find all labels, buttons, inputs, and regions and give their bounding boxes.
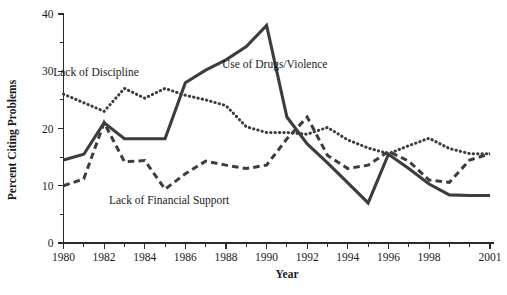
y-tick-label: 20: [42, 123, 54, 135]
x-tick-label: 1980: [52, 251, 75, 263]
y-tick-label: 0: [48, 237, 54, 249]
line-chart: 010203040 198019821984198619881990199219…: [0, 0, 507, 295]
series-line-0: [64, 25, 491, 202]
x-tick-label: 1986: [174, 251, 197, 263]
x-tick-label: 1998: [418, 251, 441, 263]
x-axis-title: Year: [276, 268, 299, 280]
axis-ticks: [58, 14, 490, 249]
y-axis-title: Percent Citing Problems: [6, 79, 19, 200]
y-axis-tick-labels: 010203040: [42, 8, 54, 249]
y-tick-label: 40: [42, 8, 54, 20]
axes: [64, 14, 495, 243]
series-label-0: Use of Drugs/Violence: [222, 58, 327, 71]
y-tick-label: 30: [42, 65, 54, 77]
data-series: [64, 25, 491, 202]
y-tick-label: 10: [42, 180, 54, 192]
series-line-1: [64, 88, 491, 153]
series-line-2: [64, 117, 491, 189]
x-tick-label: 1994: [336, 251, 359, 263]
x-tick-label: 2001: [479, 251, 502, 263]
x-tick-label: 1988: [214, 251, 237, 263]
x-tick-label: 1990: [255, 251, 278, 263]
chart-container: 010203040 198019821984198619881990199219…: [0, 0, 507, 295]
x-tick-label: 1992: [296, 251, 319, 263]
x-tick-label: 1996: [377, 251, 400, 263]
series-label-2: Lack of Financial Support: [109, 194, 230, 207]
x-axis-tick-labels: 1980198219841986198819901992199419961998…: [52, 251, 502, 263]
x-tick-label: 1984: [133, 251, 156, 263]
x-tick-label: 1982: [93, 251, 116, 263]
series-label-1: Lack of Discipline: [53, 66, 139, 79]
